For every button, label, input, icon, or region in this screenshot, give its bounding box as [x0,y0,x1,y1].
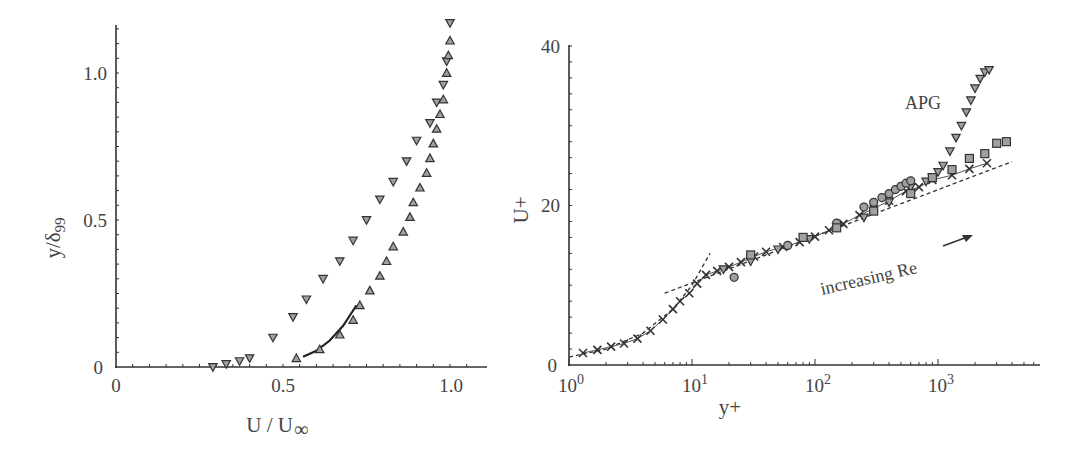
data-point [399,228,407,236]
data-point [376,196,384,204]
left-ytick-10: 1.0 [83,63,107,84]
data-point [870,207,878,215]
right-xtick-1e1: 101 [682,372,708,396]
data-point [439,81,447,89]
data-point [907,190,915,198]
data-point [446,20,454,28]
data-point [269,334,277,342]
data-point [962,109,970,117]
data-point [432,125,440,133]
data-point [389,178,397,186]
data-point [302,296,310,304]
annotation-increasing-re: increasing Re [818,257,918,299]
data-point [981,150,989,158]
data-point [993,139,1001,147]
data-point [446,36,454,44]
right-ytick-20: 20 [541,195,560,216]
data-point [362,217,370,225]
right-ytick-40: 40 [541,36,560,57]
svg-text:103: 103 [928,372,954,396]
left-x-axis-label-sub: ∞ [294,418,308,440]
data-point [412,137,420,145]
data-point [442,69,450,77]
left-ytick-0: 0 [94,357,104,378]
data-point [676,297,684,305]
left-chart: 0 0.5 1.0 0 0.5 1.0 U / U ∞ y/δ99 [41,20,487,440]
right-plot-data [569,67,1012,357]
fit-line [303,305,356,356]
data-point [965,165,973,173]
left-xtick-05: 0.5 [271,375,295,396]
data-point [860,214,868,222]
data-point [436,110,444,118]
data-point [730,273,738,281]
right-x-axis-label: y+ [719,395,741,419]
data-point [669,305,677,313]
annotation-apg: APG [905,93,941,113]
svg-text:U+: U+ [509,196,533,223]
left-plot-data [209,20,455,372]
data-point [444,51,452,59]
svg-text:increasing Re: increasing Re [818,257,918,299]
svg-text:101: 101 [682,372,708,396]
right-xtick-1e0: 100 [558,372,584,396]
data-point [693,280,701,288]
data-point [245,355,253,363]
arrow-icon [943,235,973,246]
data-point [948,166,956,174]
left-xtick-0: 0 [111,375,121,396]
left-x-minor-ticks [133,364,467,367]
data-point [422,169,430,177]
data-point [983,159,991,167]
data-point [1002,138,1010,146]
data-point [429,139,437,147]
data-point [971,85,979,93]
data-point [426,154,434,162]
data-point [946,148,954,156]
data-point [376,272,384,280]
dns-line [583,163,987,353]
data-point [416,183,424,191]
data-point [967,97,975,105]
data-point [409,198,417,206]
data-point [965,154,973,162]
data-point [356,301,364,309]
right-xtick-1e2: 102 [805,372,831,396]
data-point [402,158,410,166]
data-point [235,358,243,366]
data-point [747,251,755,259]
data-point [907,177,915,185]
right-chart: 0 20 40 100 101 102 103 y+ U+ APG increa… [509,36,1040,419]
right-ytick-0: 0 [548,355,558,376]
data-point [860,203,868,211]
left-ytick-05: 0.5 [83,210,107,231]
data-point [784,241,792,249]
data-point [319,275,327,283]
left-x-axis-label: U / U [246,413,293,437]
right-x-log-ticks [569,359,1034,365]
left-xtick-10: 1.0 [439,375,463,396]
data-point [426,120,434,128]
left-y-axis-label: y/δ99 [41,217,68,258]
data-point [336,258,344,266]
data-point [406,213,414,221]
data-point [915,183,923,191]
data-point [928,174,936,182]
figure: 0 0.5 1.0 0 0.5 1.0 U / U ∞ y/δ99 0 20 4… [0,0,1078,452]
data-point [870,198,878,206]
data-point [799,233,807,241]
data-point [976,75,984,83]
data-point [366,286,374,294]
data-point [957,122,965,130]
right-xtick-1e3: 103 [928,372,954,396]
data-point [292,354,300,362]
data-point [833,224,841,232]
data-point [382,257,390,265]
data-point [389,242,397,250]
data-point [607,343,615,351]
data-point [685,289,693,297]
data-point [289,314,297,322]
data-point [952,134,960,142]
svg-text:y/δ99: y/δ99 [41,217,68,258]
svg-text:100: 100 [558,372,584,396]
